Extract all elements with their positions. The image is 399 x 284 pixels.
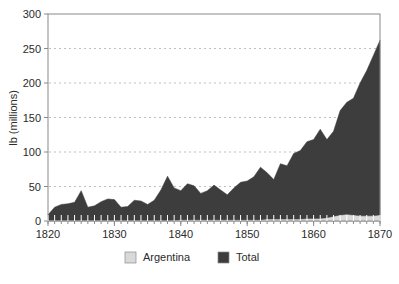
- x-tick-label: 1840: [169, 228, 193, 240]
- y-tick-label: 100: [23, 146, 41, 158]
- legend-label-argentina: Argentina: [143, 251, 191, 263]
- y-tick-label: 200: [23, 77, 41, 89]
- x-tick-label: 1870: [368, 228, 392, 240]
- y-tick-label: 300: [23, 8, 41, 20]
- series-areas: [48, 40, 380, 221]
- y-tick-label: 0: [35, 215, 41, 227]
- legend-swatch-argentina: [125, 252, 136, 263]
- y-tick-label: 250: [23, 43, 41, 55]
- y-axis-tick-labels: 050100150200250300: [23, 8, 41, 227]
- y-tick-label: 50: [29, 181, 41, 193]
- area-series-total: [48, 40, 380, 221]
- y-tick-label: 150: [23, 112, 41, 124]
- x-axis-tick-labels: 182018301840185018601870: [36, 228, 392, 240]
- x-tick-label: 1850: [235, 228, 259, 240]
- legend-label-total: Total: [236, 251, 259, 263]
- chart-container: 050100150200250300 182018301840185018601…: [0, 0, 399, 284]
- y-axis-title: lb (millions): [7, 90, 19, 146]
- legend-swatch-total: [218, 252, 229, 263]
- area-chart: 050100150200250300 182018301840185018601…: [0, 0, 399, 284]
- legend: ArgentinaTotal: [125, 251, 259, 263]
- x-tick-label: 1860: [301, 228, 325, 240]
- y-axis-ticks: [44, 14, 48, 221]
- x-tick-label: 1830: [102, 228, 126, 240]
- x-tick-label: 1820: [36, 228, 60, 240]
